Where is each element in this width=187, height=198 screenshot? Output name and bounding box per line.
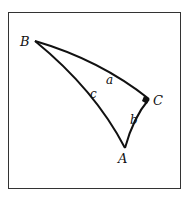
- vertex-label-b: B: [19, 34, 30, 49]
- vertex-label-a: A: [117, 151, 127, 166]
- side-label-b: b: [130, 113, 138, 127]
- side-label-c: c: [90, 87, 97, 101]
- vertex-label-c: C: [153, 93, 163, 108]
- side-label-a: a: [106, 73, 113, 87]
- spherical-triangle-diagram: B C A a b c: [0, 0, 187, 198]
